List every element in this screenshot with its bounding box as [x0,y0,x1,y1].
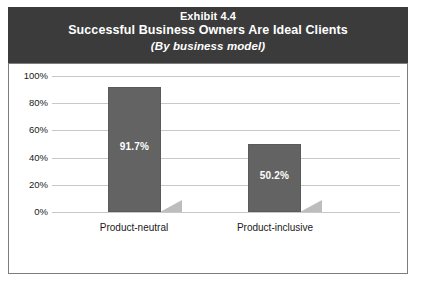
bar-value-label: 50.2% [249,170,300,181]
plot-area: 91.7% 50.2% Product-neutral Product-incl… [52,76,400,240]
x-category-label: Product-neutral [74,222,194,233]
x-category-label: Product-inclusive [215,222,335,233]
gridline [52,158,400,159]
chart-title-band: Exhibit 4.4 Successful Business Owners A… [8,7,408,63]
exhibit-number: Exhibit 4.4 [8,10,408,23]
y-tick-label: 0% [6,207,48,217]
bar-shadow [300,200,322,212]
bar-shadow [160,200,182,212]
chart-title: Successful Business Owners Are Ideal Cli… [8,23,408,38]
y-tick-label: 40% [6,153,48,163]
y-tick-label: 60% [6,125,48,135]
bar-value-label: 91.7% [109,141,160,152]
chart-subtitle: (By business model) [8,39,408,53]
bar-product-neutral[interactable]: 91.7% [108,87,161,212]
gridline [52,103,400,104]
bar-product-inclusive[interactable]: 50.2% [248,144,301,212]
exhibit-chart: Exhibit 4.4 Successful Business Owners A… [0,0,423,282]
y-axis: 100% 80% 60% 40% 20% 0% [4,76,48,240]
y-tick-label: 20% [6,180,48,190]
gridline [52,76,400,77]
gridline [52,212,400,213]
y-tick-label: 80% [6,98,48,108]
y-tick-label: 100% [6,71,48,81]
gridline [52,130,400,131]
gridline [52,185,400,186]
